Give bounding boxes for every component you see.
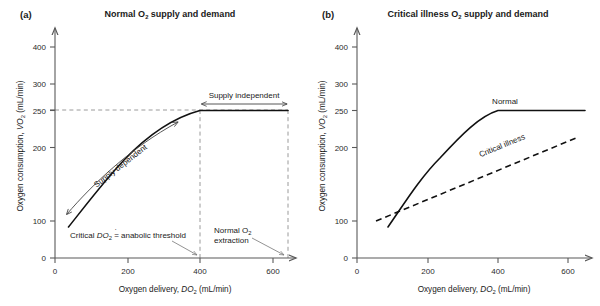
- panel-b-vdot-icon: ·: [322, 103, 324, 110]
- panel-b-normal-curve-label: Normal: [492, 97, 518, 106]
- panel-a-xlabel-symbol: DO: [181, 285, 194, 294]
- critical-do2-label: Critical DO2 = anabolic threshold: [70, 231, 186, 241]
- panel-b-title-part1: Critical illness O: [388, 9, 459, 19]
- normal-extraction-part1: Normal O: [214, 226, 248, 235]
- normal-extraction-label-line2: extraction: [214, 236, 249, 245]
- critical-do2-dot-icon: ·: [115, 226, 117, 233]
- critical-do2-symbol: DO: [97, 231, 109, 240]
- panel-a-title-part1: Normal O: [105, 9, 146, 19]
- panel-b-xlabel-symbol: DO: [480, 285, 493, 294]
- panel-b-ytick-200: 200: [335, 144, 349, 153]
- panel-b-xtick-600: 600: [561, 267, 575, 276]
- figure-container: (a) Normal O2 supply and demand 0 100 20…: [0, 0, 600, 306]
- panel-a-ytick-300: 300: [33, 80, 47, 89]
- panel-b-ylabel-symbol: VO: [318, 118, 327, 130]
- panel-a-y-axis-title: Oxygen consumption, VO2 (mL/min): [16, 80, 26, 211]
- panel-b-xlabel-part2: (mL/min): [496, 285, 531, 294]
- canvas-background: [0, 0, 600, 306]
- panel-a-xlabel-part2: (mL/min): [197, 285, 232, 294]
- panel-b-ytick-400: 400: [335, 43, 349, 52]
- panel-b-letter: (b): [322, 9, 334, 20]
- panel-b-ytick-300: 300: [335, 80, 349, 89]
- panel-b-ytick-100: 100: [335, 217, 349, 226]
- panel-a-xtick-200: 200: [121, 267, 135, 276]
- panel-b-ytick-0: 0: [344, 254, 349, 263]
- panel-b-xlabel-part1: Oxygen delivery,: [418, 285, 481, 294]
- panel-a-ylabel-part2: (mL/min): [16, 80, 25, 115]
- panel-a-xlabel-part1: Oxygen delivery,: [119, 285, 182, 294]
- panel-a-xtick-0: 0: [53, 267, 58, 276]
- panel-a-ylabel-symbol: VO: [16, 118, 25, 130]
- panel-b-y-axis-title: Oxygen consumption, VO2 (mL/min): [318, 80, 328, 211]
- panel-a-ytick-200: 200: [33, 144, 47, 153]
- panel-b-ytick-250: 250: [335, 107, 349, 116]
- panel-a-ytick-0: 0: [42, 254, 47, 263]
- panel-b-xtick-400: 400: [491, 267, 505, 276]
- panel-a-ytick-400: 400: [33, 43, 47, 52]
- panel-a-ytick-250: 250: [33, 107, 47, 116]
- normal-extraction-label-line1: Normal O2: [214, 226, 251, 236]
- panel-b-xtick-0: 0: [355, 267, 360, 276]
- panel-b-ylabel-part2: (mL/min): [318, 80, 327, 115]
- panel-a-vdot-icon: ·: [20, 103, 22, 110]
- critical-do2-part2: = anabolic threshold: [112, 231, 186, 240]
- panel-a-x-axis-title: Oxygen delivery, DO2 (mL/min): [119, 285, 232, 295]
- panel-b-title: Critical illness O2 supply and demand: [388, 9, 549, 20]
- panel-a-title-part2: supply and demand: [148, 9, 235, 19]
- panel-a-title: Normal O2 supply and demand: [105, 9, 236, 20]
- critical-do2-part1: Critical: [70, 231, 97, 240]
- scientific-figure: (a) Normal O2 supply and demand 0 100 20…: [0, 0, 600, 306]
- panel-b-xtick-200: 200: [421, 267, 435, 276]
- panel-b-x-axis-title: Oxygen delivery, DO2 (mL/min): [418, 285, 531, 295]
- normal-extraction-sub: 2: [248, 230, 251, 236]
- panel-a-xtick-400: 400: [193, 267, 207, 276]
- panel-b-title-part2: supply and demand: [461, 9, 548, 19]
- panel-b-ylabel-part1: Oxygen consumption,: [318, 130, 327, 211]
- supply-independent-label: Supply independent: [209, 91, 281, 100]
- panel-a-xtick-600: 600: [266, 267, 280, 276]
- panel-a-ylabel-part1: Oxygen consumption,: [16, 130, 25, 211]
- panel-a-letter: (a): [20, 9, 32, 20]
- panel-a-ytick-100: 100: [33, 217, 47, 226]
